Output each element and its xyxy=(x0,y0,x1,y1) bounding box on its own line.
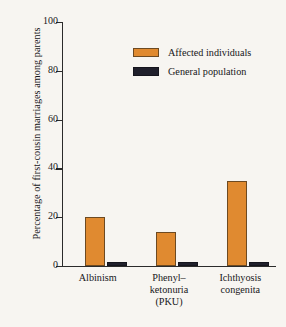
y-tick-label: 60 xyxy=(48,113,58,124)
x-axis-line xyxy=(58,266,276,267)
legend-swatch-affected xyxy=(133,48,159,57)
bar-chart-figure: Percentage of first-cousin marriages amo… xyxy=(0,0,286,327)
x-group-label-2: Ichthyosiscongenita xyxy=(199,272,282,296)
y-tick-label: 80 xyxy=(48,64,58,75)
x-label-line: Ichthyosis xyxy=(199,272,282,284)
legend-label: General population xyxy=(168,66,246,77)
legend-label: Affected individuals xyxy=(168,47,251,58)
bar-affected-1 xyxy=(156,232,176,266)
legend-item-0: Affected individuals xyxy=(133,46,283,58)
y-tick-label: 20 xyxy=(48,210,58,221)
y-tick-label: 40 xyxy=(48,161,58,172)
legend: Affected individualsGeneral population xyxy=(133,46,283,84)
legend-item-1: General population xyxy=(133,65,283,77)
y-tick-label: 0 xyxy=(53,259,58,270)
legend-swatch-general xyxy=(133,67,159,76)
bar-general-0 xyxy=(107,262,127,266)
x-label-line: congenita xyxy=(199,284,282,296)
bar-general-2 xyxy=(249,262,269,266)
x-label-line: (PKU) xyxy=(127,296,210,308)
y-tick-label: 100 xyxy=(43,15,58,26)
bar-general-1 xyxy=(178,262,198,266)
bar-affected-0 xyxy=(85,217,105,266)
y-axis-title: Percentage of first-cousin marriages amo… xyxy=(31,14,42,254)
y-axis-line xyxy=(62,22,63,266)
bar-affected-2 xyxy=(227,181,247,266)
